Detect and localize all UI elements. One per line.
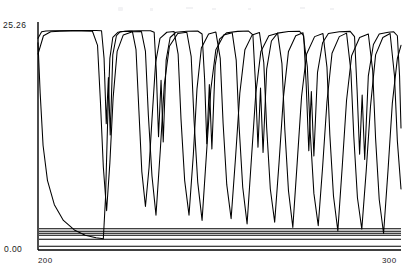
series-line: [38, 31, 401, 160]
series-group: [38, 31, 401, 239]
chart-figure: 25.26 0.00 200 300: [0, 0, 417, 274]
series-line: [38, 31, 401, 238]
plot-area: [0, 0, 417, 274]
series-line: [38, 31, 401, 233]
